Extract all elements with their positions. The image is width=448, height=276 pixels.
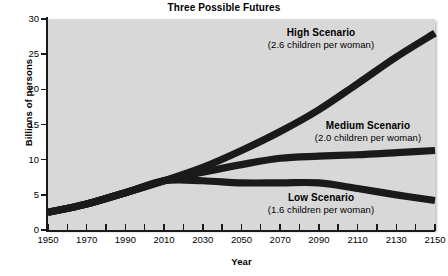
- y-axis-tick-label: 20: [0, 84, 39, 94]
- chart-title: Three Possible Futures: [0, 1, 448, 14]
- annotation-high-scenario-label: High Scenario: [226, 27, 416, 39]
- y-axis-tick: [41, 18, 47, 20]
- y-axis-tick: [41, 53, 47, 55]
- y-axis-tick-label: 10: [0, 155, 39, 165]
- annotation-high-scenario: High Scenario (2.6 children per woman): [226, 27, 416, 51]
- x-axis-tick-label: 2150: [412, 234, 448, 245]
- chart-figure: Three Possible Futures Billions of perso…: [0, 0, 448, 276]
- annotation-medium-scenario-sublabel: (2.0 children per woman): [288, 132, 448, 144]
- annotation-medium-scenario-label: Medium Scenario: [288, 120, 448, 132]
- annotation-high-scenario-sublabel: (2.6 children per woman): [226, 39, 416, 51]
- y-axis-tick-label: 15: [0, 120, 39, 130]
- y-axis-tick: [41, 124, 47, 126]
- annotation-low-scenario-label: Low Scenario: [226, 192, 416, 204]
- y-axis-tick: [41, 229, 47, 231]
- y-axis-tick: [41, 159, 47, 161]
- y-axis-tick: [41, 89, 47, 91]
- annotation-low-scenario: Low Scenario (1.6 children per woman): [226, 192, 416, 216]
- y-axis-tick: [41, 194, 47, 196]
- y-axis-tick-label: 30: [0, 14, 39, 24]
- y-axis-tick-label: 5: [0, 190, 39, 200]
- x-axis-title: Year: [48, 256, 435, 267]
- annotation-low-scenario-sublabel: (1.6 children per woman): [226, 204, 416, 216]
- annotation-medium-scenario: Medium Scenario (2.0 children per woman): [288, 120, 448, 144]
- y-axis-tick-label: 25: [0, 49, 39, 59]
